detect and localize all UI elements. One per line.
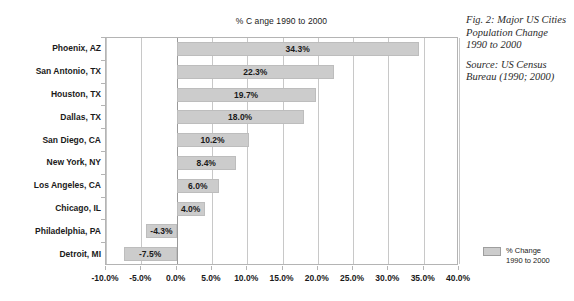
value-tick bbox=[176, 266, 177, 270]
bar-value-label: 34.3% bbox=[177, 42, 419, 56]
bar-row: 10.2% bbox=[106, 129, 457, 152]
value-tick bbox=[282, 266, 283, 270]
bar-row: -7.5% bbox=[106, 243, 457, 266]
legend-swatch-percent-change bbox=[483, 247, 501, 256]
gridline bbox=[459, 38, 460, 264]
value-tick bbox=[211, 266, 212, 270]
bar-row: 18.0% bbox=[106, 106, 457, 129]
bar-value-label: 4.0% bbox=[177, 202, 205, 216]
value-tick bbox=[458, 266, 459, 270]
value-tick bbox=[423, 266, 424, 270]
bar-row: 22.3% bbox=[106, 61, 457, 84]
bar-value-label: 10.2% bbox=[177, 133, 249, 147]
category-label: Detroit, MI bbox=[5, 249, 101, 259]
chart-container: % C ange 1990 to 2000 Phoenix, AZSan Ant… bbox=[0, 0, 462, 301]
bar-row: 8.4% bbox=[106, 152, 457, 175]
bar-value-label: 6.0% bbox=[177, 179, 219, 193]
category-label: San Antonio, TX bbox=[5, 66, 101, 76]
chart-title: % C ange 1990 to 2000 bbox=[105, 16, 458, 26]
chart-legend: % Change 1990 to 2000 bbox=[483, 246, 550, 265]
bar-value-label: 19.7% bbox=[177, 88, 316, 102]
category-label: Dallas, TX bbox=[5, 112, 101, 122]
bar-row: 19.7% bbox=[106, 84, 457, 107]
value-tick bbox=[317, 266, 318, 270]
category-axis: Phoenix, AZSan Antonio, TXHouston, TXDal… bbox=[0, 37, 101, 265]
bar-value-label: -7.5% bbox=[124, 247, 177, 261]
bar-row: 4.0% bbox=[106, 198, 457, 221]
bar-value-label: 18.0% bbox=[177, 110, 304, 124]
category-label: Philadelphia, PA bbox=[5, 226, 101, 236]
category-label: New York, NY bbox=[5, 157, 101, 167]
bar-row: 6.0% bbox=[106, 175, 457, 198]
value-tick bbox=[387, 266, 388, 270]
value-axis-label: 40.0% bbox=[435, 273, 481, 283]
bar-value-label: 8.4% bbox=[177, 156, 236, 170]
legend-label: % Change 1990 to 2000 bbox=[506, 246, 550, 265]
bar-value-label: -4.3% bbox=[146, 224, 176, 238]
figure-caption-title: Fig. 2: Major US Cities Population Chang… bbox=[466, 14, 570, 52]
value-tick bbox=[352, 266, 353, 270]
category-label: Los Angeles, CA bbox=[5, 180, 101, 190]
category-label: Phoenix, AZ bbox=[5, 43, 101, 53]
category-label: San Diego, CA bbox=[5, 135, 101, 145]
figure-caption: Fig. 2: Major US Cities Population Chang… bbox=[466, 14, 570, 84]
value-tick bbox=[140, 266, 141, 270]
legend-label-line2: 1990 to 2000 bbox=[506, 256, 550, 265]
legend-label-line1: % Change bbox=[506, 246, 541, 255]
value-tick bbox=[105, 266, 106, 270]
bar-value-label: 22.3% bbox=[177, 65, 334, 79]
value-tick bbox=[246, 266, 247, 270]
category-label: Houston, TX bbox=[5, 89, 101, 99]
bar-row: -4.3% bbox=[106, 220, 457, 243]
plot-area: 34.3%22.3%19.7%18.0%10.2%8.4%6.0%4.0%-4.… bbox=[105, 37, 458, 265]
category-label: Chicago, IL bbox=[5, 203, 101, 213]
bar-row: 34.3% bbox=[106, 38, 457, 61]
figure-caption-source: Source: US Census Bureau (1990; 2000) bbox=[466, 59, 570, 84]
value-axis: -10.0%-5.0%0.0%5.0%10.0%15.0%20.0%25.0%3… bbox=[0, 266, 462, 286]
